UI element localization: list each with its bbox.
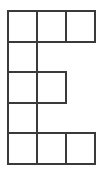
cell-r1c3 [66, 11, 95, 42]
cell-r4c1 [8, 103, 37, 134]
cell-r5c1 [8, 133, 37, 164]
cell-r1c1 [8, 11, 37, 42]
cell-r3c2 [37, 72, 66, 103]
letter-e-grid-svg [0, 0, 103, 173]
cell-r1c2 [37, 11, 66, 42]
figure-canvas [0, 0, 103, 173]
cell-r2c1 [8, 42, 37, 73]
cell-r5c2 [37, 133, 66, 164]
cell-r5c3 [66, 133, 95, 164]
cell-r3c1 [8, 72, 37, 103]
